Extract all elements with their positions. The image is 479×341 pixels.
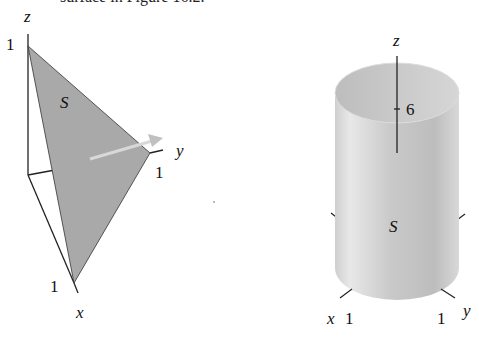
left-x-axis-label: x [75, 303, 84, 322]
left-surface-label: S [60, 93, 69, 112]
right-x-tick: 1 [345, 309, 354, 328]
right-z-tick: 6 [406, 100, 415, 119]
right-figure: z 6 S x 1 1 y [326, 31, 471, 328]
right-y-axis-label: y [461, 301, 471, 320]
left-y-tick: 1 [155, 163, 164, 182]
left-y-axis-label: y [174, 141, 184, 160]
left-z-axis-label: z [23, 7, 31, 26]
speck [213, 201, 215, 203]
right-surface-label: S [389, 217, 398, 236]
right-z-axis-label: z [392, 31, 400, 50]
left-x-tick: 1 [50, 277, 59, 296]
right-y-tick: 1 [437, 309, 446, 328]
left-figure: z 1 S y 1 1 x [6, 7, 184, 322]
right-x-axis-label: x [326, 309, 335, 328]
left-z-tick: 1 [6, 35, 15, 54]
figures: z 1 S y 1 1 x z 6 S x 1 1 y [0, 0, 479, 341]
